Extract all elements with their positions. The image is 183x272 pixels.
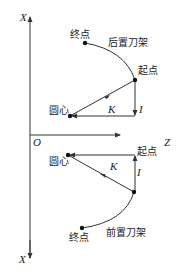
- rear-end-dot: [83, 41, 87, 45]
- x-axis-top-label: X: [20, 12, 27, 22]
- front-end-point-label: 终点: [69, 233, 89, 243]
- rear-arc: [85, 43, 135, 80]
- circular-interpolation-diagram: X X Z O 终点 后置刀架 起点 圆心 K I 起点 圆心 K I 终点 前…: [0, 0, 183, 272]
- origin-label: O: [33, 137, 41, 147]
- front-center-label: 圆心: [49, 157, 69, 167]
- z-axis-label: Z: [164, 137, 170, 147]
- rear-tool-post-title: 后置刀架: [108, 38, 148, 48]
- front-radius-arrow: [100, 174, 106, 178]
- front-vector-i-label: I: [137, 167, 141, 177]
- rear-vector-i-label: I: [139, 104, 143, 114]
- x-axis-bottom-label: X: [19, 254, 26, 264]
- front-start-dot: [132, 190, 136, 194]
- rear-radius: [70, 80, 135, 116]
- rear-start-dot: [133, 78, 137, 82]
- rear-center-label: 圆心: [49, 106, 69, 116]
- rear-start-point-label: 起点: [138, 66, 158, 76]
- front-arc: [82, 192, 134, 228]
- rear-vector-k-label: K: [108, 104, 115, 114]
- rear-end-point-label: 终点: [70, 30, 90, 40]
- front-start-point-label: 起点: [137, 147, 157, 157]
- front-radius: [68, 155, 134, 192]
- front-end-dot: [80, 226, 84, 230]
- front-vector-k-label: K: [110, 161, 117, 171]
- front-tool-post-title: 前置刀架: [106, 228, 146, 238]
- diagram-lines: [0, 0, 183, 272]
